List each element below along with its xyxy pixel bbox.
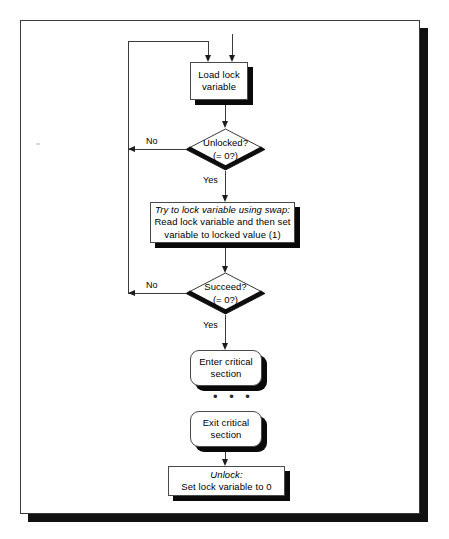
node-unlocked-line2: (= 0?): [213, 150, 238, 163]
unlocked-no-arrowhead: [128, 146, 135, 152]
node-unlock-line1: Unlock:: [210, 469, 242, 482]
node-unlock-line2: Set lock variable to 0: [181, 481, 271, 494]
node-enter-line1: Enter critical: [199, 356, 253, 369]
feedback-loop-drop: [208, 41, 209, 55]
node-unlocked-line1: Unlocked?: [203, 137, 248, 150]
load-to-unlocked-line: [225, 105, 226, 121]
succeed-yes-arrowhead: [222, 343, 228, 350]
node-swap-line1: Try to lock variable using swap:: [155, 204, 290, 217]
node-exit-critical-section: Exit critical section: [190, 411, 262, 447]
edge-label-succeed-yes: Yes: [203, 320, 218, 330]
node-swap-line2: Read lock variable and then set: [154, 216, 290, 229]
succeed-no-line: [128, 293, 186, 294]
node-body: Exit critical section: [190, 411, 262, 447]
unlocked-yes-line: [225, 171, 226, 195]
node-body: Try to lock variable using swap: Read lo…: [150, 202, 295, 243]
load-to-unlocked-arrowhead: [222, 121, 228, 128]
feedback-loop-vertical: [128, 41, 129, 293]
node-enter-critical-section: Enter critical section: [190, 350, 262, 386]
node-unlocked-decision: Unlocked? (= 0?): [185, 128, 266, 171]
node-try-lock-swap: Try to lock variable using swap: Read lo…: [150, 202, 295, 243]
feedback-loop-horizontal: [128, 41, 208, 42]
diamond-text: Succeed? (= 0?): [185, 272, 266, 315]
succeed-no-arrowhead: [128, 290, 135, 296]
node-succeed-line1: Succeed?: [204, 281, 246, 294]
node-load-line2: variable: [202, 81, 236, 94]
node-swap-line3: variable to locked value (1): [164, 229, 280, 242]
node-exit-line1: Exit critical: [203, 417, 250, 430]
node-load-lock-variable: Load lock variable: [190, 62, 248, 100]
critical-section-ellipsis: • • •: [213, 389, 254, 404]
node-unlock: Unlock: Set lock variable to 0: [168, 466, 285, 496]
unlocked-yes-arrowhead: [222, 195, 228, 202]
feedback-loop-arrowhead: [205, 55, 211, 62]
edge-label-unlocked-no: No: [146, 136, 158, 146]
exit-to-unlock-arrowhead: [222, 459, 228, 466]
edge-label-unlocked-yes: Yes: [203, 175, 218, 185]
unlocked-no-line: [128, 149, 186, 150]
entry-line: [232, 34, 233, 55]
node-succeed-decision: Succeed? (= 0?): [185, 272, 266, 315]
swap-to-succeed-line: [225, 248, 226, 266]
node-load-line1: Load lock: [198, 69, 240, 82]
diamond-text: Unlocked? (= 0?): [185, 128, 266, 171]
entry-arrowhead: [229, 55, 235, 62]
node-succeed-line2: (= 0?): [213, 294, 238, 307]
node-exit-line2: section: [211, 429, 242, 442]
node-body: Load lock variable: [190, 62, 248, 100]
node-body: Unlock: Set lock variable to 0: [168, 466, 285, 496]
succeed-yes-line: [225, 315, 226, 343]
edge-label-succeed-no: No: [146, 280, 158, 290]
node-body: Enter critical section: [190, 350, 262, 386]
flowchart-canvas: Load lock variable Unlocked? (= 0?) No Y…: [0, 0, 449, 539]
node-enter-line2: section: [211, 368, 242, 381]
scan-artifact: [36, 143, 40, 145]
